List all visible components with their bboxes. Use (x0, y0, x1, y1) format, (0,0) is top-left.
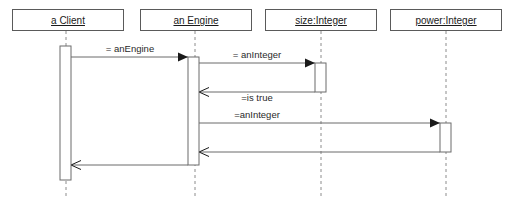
message-size-aninteger[interactable]: = anInteger (199, 49, 315, 68)
message-label-create-engine: = anEngine (106, 43, 154, 54)
lifeline-header-client[interactable]: a Client (13, 10, 124, 31)
lifeline-header-label-client: a Client (51, 15, 85, 26)
activation-bar-client[interactable] (60, 46, 71, 180)
messages-group: = anEngine = anInteger =is true =anInteg… (71, 43, 440, 170)
message-label-power-aninteger: =anInteger (234, 109, 280, 120)
message-return-power[interactable] (199, 148, 440, 157)
lifeline-header-power[interactable]: power:Integer (391, 10, 502, 31)
sequence-diagram-svg: = anEngine = anInteger =is true =anInteg… (0, 0, 506, 209)
message-label-size-aninteger: = anInteger (233, 49, 281, 60)
message-return-is-true[interactable]: =is true (199, 88, 315, 104)
arrowhead-filled-icon (305, 59, 315, 68)
activation-bar-engine[interactable] (188, 57, 199, 165)
message-create-engine[interactable]: = anEngine (71, 43, 188, 62)
message-power-aninteger[interactable]: =anInteger (199, 109, 440, 128)
lifeline-header-label-size: size:Integer (295, 15, 347, 26)
activation-bar-size[interactable] (315, 63, 326, 92)
lifeline-header-size[interactable]: size:Integer (266, 10, 377, 31)
lifeline-header-engine[interactable]: an Engine (141, 10, 252, 31)
arrowhead-filled-icon (430, 119, 440, 128)
activation-bar-power[interactable] (440, 123, 451, 152)
arrowhead-filled-icon (178, 53, 188, 62)
message-return-client[interactable] (71, 161, 188, 170)
lifeline-headers-group: a Client an Engine size:Integer power:In… (13, 10, 502, 31)
lifeline-header-label-engine: an Engine (173, 15, 218, 26)
message-label-return-is-true: =is true (241, 92, 272, 103)
lifeline-header-label-power: power:Integer (415, 15, 477, 26)
sequence-diagram-canvas: = anEngine = anInteger =is true =anInteg… (0, 0, 506, 209)
